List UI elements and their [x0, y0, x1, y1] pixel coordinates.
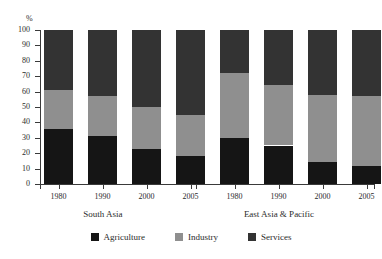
legend-swatch-agriculture-icon	[91, 233, 99, 241]
bar-segment-services	[352, 30, 381, 96]
bar-segment-agriculture	[88, 136, 117, 184]
x-axis-label-2005: 2005	[171, 192, 211, 201]
legend-label-services: Services	[261, 232, 292, 242]
bar-segment-agriculture	[264, 146, 293, 185]
x-tick-1980	[235, 184, 236, 189]
bar-segment-agriculture	[352, 166, 381, 184]
bar-segment-industry	[44, 90, 73, 129]
bar-segment-services	[88, 30, 117, 96]
bar-segment-services	[44, 30, 73, 90]
x-axis-label-2000: 2000	[127, 192, 167, 201]
bar-segment-industry	[88, 96, 117, 136]
x-tick-2000	[323, 184, 324, 189]
x-tick-1990	[103, 184, 104, 189]
bar-segment-services	[176, 30, 205, 115]
legend-item-agriculture: Agriculture	[91, 232, 145, 242]
group-label-south-asia: South Asia	[28, 209, 178, 219]
plot-area	[0, 0, 382, 259]
bar-east-asia-pacific-2005	[352, 30, 381, 184]
bar-segment-agriculture	[176, 156, 205, 184]
x-tick-2000	[147, 184, 148, 189]
x-tick-separator-1	[196, 184, 197, 189]
legend-label-industry: Industry	[188, 232, 218, 242]
bar-south-asia-2000	[132, 30, 161, 184]
x-axis-label-1980: 1980	[215, 192, 255, 201]
bar-segment-services	[220, 30, 249, 73]
chart-legend: AgricultureIndustryServices	[0, 232, 382, 242]
legend-label-agriculture: Agriculture	[104, 232, 145, 242]
x-tick-separator-2	[374, 184, 375, 189]
bar-segment-industry	[352, 96, 381, 165]
bar-segment-industry	[176, 115, 205, 157]
x-tick-2005	[367, 184, 368, 189]
bar-south-asia-1990	[88, 30, 117, 184]
bar-segment-services	[132, 30, 161, 107]
bar-south-asia-1980	[44, 30, 73, 184]
bar-segment-industry	[308, 95, 337, 163]
bar-east-asia-pacific-2000	[308, 30, 337, 184]
x-axis-line	[40, 184, 374, 185]
bar-south-asia-2005	[176, 30, 205, 184]
x-tick-1980	[59, 184, 60, 189]
x-axis-label-2000: 2000	[303, 192, 343, 201]
x-axis-label-2005: 2005	[347, 192, 382, 201]
bar-segment-agriculture	[44, 129, 73, 184]
x-axis-label-1990: 1990	[259, 192, 299, 201]
x-axis-label-1990: 1990	[83, 192, 123, 201]
legend-swatch-services-icon	[248, 233, 256, 241]
bar-segment-agriculture	[220, 138, 249, 184]
bar-segment-agriculture	[308, 162, 337, 184]
bar-segment-services	[308, 30, 337, 95]
group-label-east-asia-pacific: East Asia & Pacific	[204, 209, 354, 219]
legend-item-services: Services	[248, 232, 292, 242]
legend-swatch-industry-icon	[175, 233, 183, 241]
legend-item-industry: Industry	[175, 232, 218, 242]
x-tick-1990	[279, 184, 280, 189]
bar-east-asia-pacific-1990	[264, 30, 293, 184]
x-tick-2005	[191, 184, 192, 189]
bar-east-asia-pacific-1980	[220, 30, 249, 184]
x-tick-separator-0	[40, 184, 41, 189]
bar-segment-industry	[220, 73, 249, 138]
x-axis-label-1980: 1980	[39, 192, 79, 201]
stacked-bar-chart: % 1009080706050403020100 198019902000200…	[0, 0, 382, 259]
bar-segment-industry	[264, 85, 293, 145]
bar-segment-agriculture	[132, 149, 161, 184]
bar-segment-services	[264, 30, 293, 85]
bar-segment-industry	[132, 107, 161, 149]
